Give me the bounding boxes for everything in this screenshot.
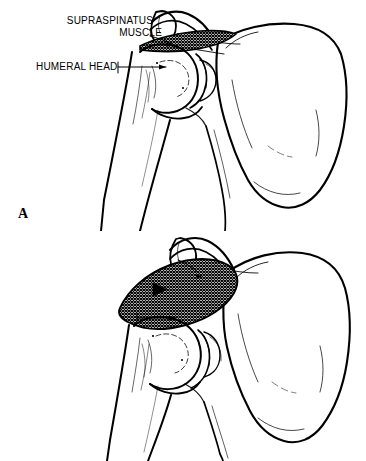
- panel-b-subluxated-shoulder: SUPRASPINATUSMUSCLE SHOULDER SUBLUXATION…: [0, 230, 366, 461]
- arrowhead-humeral-head: [159, 65, 166, 70]
- scapula-body: [216, 24, 346, 208]
- panel-a-normal-shoulder: SUPRASPINATUSMUSCLE HUMERAL HEAD A: [0, 0, 366, 230]
- label-supraspinatus-line1: SUPRASPINATUS: [67, 15, 153, 26]
- label-supraspinatus-muscle: SUPRASPINATUSMUSCLE: [58, 15, 162, 38]
- shoulder-subluxation-figure: SUPRASPINATUSMUSCLE HUMERAL HEAD A: [0, 0, 366, 461]
- humerus-shaft-lateral: [148, 395, 171, 461]
- scapula-lateral-border: [206, 126, 225, 231]
- panel-letter-a: A: [18, 207, 28, 221]
- label-supraspinatus-line2: MUSCLE: [58, 27, 162, 39]
- humerus-shaft-medial: [107, 325, 129, 461]
- humeral-head: [140, 44, 198, 112]
- humerus-shaft-medial: [101, 52, 132, 231]
- label-humeral-head: HUMERAL HEAD: [36, 61, 118, 73]
- scapula-body: [223, 252, 349, 442]
